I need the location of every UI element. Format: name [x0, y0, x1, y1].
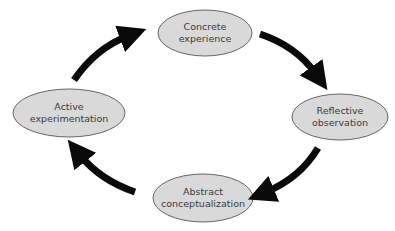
node-label: Concrete experience: [179, 21, 232, 45]
node-active-experimentation: Active experimentation: [13, 89, 125, 137]
node-label: Reflective observation: [312, 105, 368, 129]
node-label: Active experimentation: [30, 101, 109, 125]
arrow-reflective-to-abstract: [266, 148, 318, 192]
arrow-abstract-to-active: [80, 155, 135, 192]
arrow-concrete-to-reflective: [260, 34, 316, 74]
node-label: Abstract conceptualization: [161, 186, 245, 210]
node-reflective-observation: Reflective observation: [292, 94, 388, 140]
node-concrete-experience: Concrete experience: [158, 10, 252, 56]
arrow-active-to-concrete: [74, 36, 128, 80]
node-abstract-conceptualization: Abstract conceptualization: [153, 174, 253, 222]
learning-cycle-diagram: Concrete experience Reflective observati…: [0, 0, 395, 231]
